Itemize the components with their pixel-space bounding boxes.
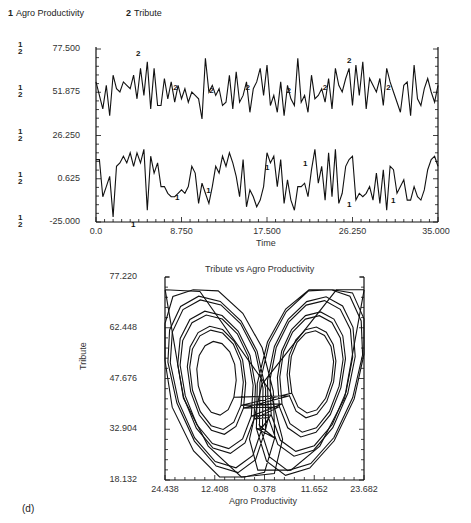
series-1-line	[96, 149, 438, 217]
series-marker: 1	[347, 200, 352, 209]
series-marker: 2	[245, 83, 250, 92]
series-marker: 1	[265, 163, 270, 172]
series-marker: 2	[136, 49, 141, 58]
charts-canvas: 111111122222222	[0, 0, 471, 523]
series-marker: 1	[131, 220, 136, 229]
bottom-chart-series	[165, 290, 364, 477]
series-marker: 2	[386, 83, 391, 92]
series-marker: 2	[173, 83, 178, 92]
series-marker: 1	[206, 186, 211, 195]
outer-loop-2	[250, 290, 365, 470]
series-marker: 2	[209, 86, 214, 95]
series-marker: 2	[323, 83, 328, 92]
series-marker: 2	[286, 86, 291, 95]
series-marker: 2	[347, 56, 352, 65]
series-marker: 1	[303, 159, 308, 168]
series-marker: 1	[391, 196, 396, 205]
top-chart-series: 111111122222222	[96, 49, 438, 229]
series-marker: 1	[175, 193, 180, 202]
